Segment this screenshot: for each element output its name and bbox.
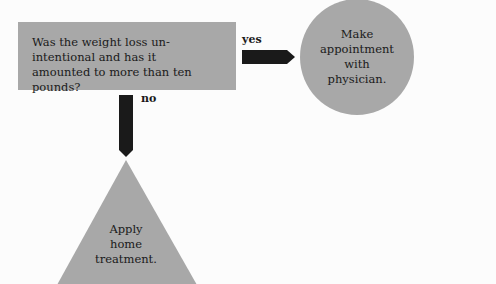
triangle-line-2: home (76, 237, 176, 252)
physician-circle: Make appointment with physician. (300, 0, 414, 115)
triangle-line-3: treatment. (76, 252, 176, 267)
circle-line-1: Make (320, 27, 394, 42)
yes-label: yes (242, 33, 262, 46)
circle-line-3: with (320, 57, 394, 72)
triangle-text: Apply home treatment. (76, 222, 176, 267)
decision-line-2: intentional and has it (32, 50, 236, 65)
decision-line-3: amounted to more than ten pounds? (32, 65, 236, 95)
decision-box: Was the weight loss un- intentional and … (18, 22, 236, 90)
decision-line-1: Was the weight loss un- (32, 35, 236, 50)
circle-line-2: appointment (320, 42, 394, 57)
circle-line-4: physician. (320, 72, 394, 87)
no-arrow (119, 95, 133, 157)
triangle-line-1: Apply (76, 222, 176, 237)
yes-arrow (242, 50, 295, 64)
no-label: no (141, 92, 156, 105)
